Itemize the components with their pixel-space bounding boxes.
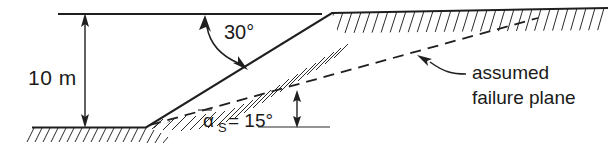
height-dimension-group (81, 13, 89, 128)
annotation-leader-arrowhead (417, 55, 432, 66)
slope-angle-arrow-top (199, 15, 211, 32)
lower-ground-hatching (27, 128, 168, 143)
failure-plane-angle-label-group: α S = 15° (198, 110, 273, 135)
alpha-value: = 15° (228, 110, 273, 131)
height-dimension-label: 10 m (28, 66, 77, 89)
annotation-leader-group (417, 55, 466, 74)
slope-diagram-figure: 10 m 30° α S = 15° (0, 0, 610, 144)
annotation-leader-line (430, 62, 466, 74)
alpha-subscript: S (218, 120, 227, 135)
slope-cross-section-svg: 10 m 30° α S = 15° (0, 0, 610, 144)
annotation-line-1: assumed (472, 62, 549, 83)
annotation-line-2: failure plane (472, 87, 576, 108)
alpha-symbol: α (203, 110, 214, 131)
slope-angle-label: 30° (224, 21, 254, 43)
slope-angle-arrow-bottom (233, 56, 248, 70)
